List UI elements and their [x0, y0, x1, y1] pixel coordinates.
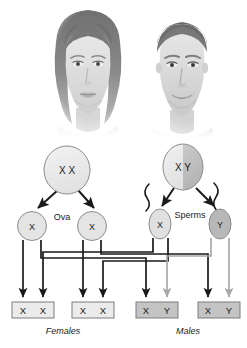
ovum-2-allele-label: X: [89, 222, 95, 232]
offspring-1-allele-b: X: [40, 305, 47, 316]
female-parent-genotype-node: X X: [44, 146, 90, 194]
line-spermy-to-offspring3: [167, 238, 211, 297]
offspring-3-allele-a: X: [143, 305, 150, 316]
offspring-4-box: X Y: [198, 302, 240, 318]
offspring-1-allele-a: X: [20, 305, 27, 316]
ova-label: Ova: [54, 212, 71, 222]
line-spermx-to-offspring1: [43, 238, 153, 297]
females-caption: Females: [46, 326, 81, 336]
arrow-male-to-spermy: [196, 188, 214, 206]
males-caption: Males: [176, 326, 201, 336]
offspring-2-box: X X: [72, 302, 114, 318]
offspring-3-box: X Y: [136, 302, 178, 318]
gamete-tier-labels: Ova Sperms: [54, 210, 206, 222]
male-parent-photo: [140, 2, 236, 144]
figure-root: X X X Y X X X: [0, 0, 247, 348]
arrow-female-to-ovum2: [78, 190, 94, 208]
male-parent-genotype-node: X Y: [163, 144, 203, 190]
inheritance-lines: [23, 238, 229, 297]
offspring-2-allele-a: X: [80, 305, 87, 316]
sperm-x-allele-label: X: [157, 220, 163, 230]
offspring-boxes: X X X X X Y X Y: [12, 302, 240, 318]
offspring-2-allele-b: X: [100, 305, 107, 316]
arrow-female-to-ovum1: [38, 190, 58, 208]
sperm-y-node: Y: [209, 209, 231, 239]
offspring-1-box: X X: [12, 302, 54, 318]
line-ovum2-to-offspring4: [101, 240, 208, 297]
sperm-y-allele-label: Y: [217, 220, 223, 230]
figure-canvas: X X X Y X X X: [0, 0, 247, 348]
offspring-3-allele-b: Y: [164, 305, 171, 316]
male-parent-genotype-label: X Y: [175, 162, 191, 173]
flagellum-right-icon: [214, 183, 218, 211]
line-ovum1-to-offspring3: [41, 240, 146, 297]
ovum-1-node: X: [18, 212, 47, 241]
sperms-label: Sperms: [174, 210, 206, 220]
ovum-1-allele-label: X: [29, 222, 35, 232]
offspring-4-allele-b: Y: [226, 305, 233, 316]
female-parent-photo: [44, 2, 136, 142]
ovum-2-node: X: [78, 212, 107, 241]
sperm-x-node: X: [149, 209, 171, 239]
offspring-4-allele-a: X: [205, 305, 212, 316]
parent-nodes: X X X Y: [44, 144, 203, 194]
arrow-male-to-spermx: [162, 188, 174, 206]
figure-captions: Females Males: [46, 326, 201, 336]
line-spermx-to-offspring2: [103, 238, 168, 297]
female-parent-genotype-label: X X: [59, 165, 75, 176]
flagellum-left-icon: [145, 184, 149, 211]
